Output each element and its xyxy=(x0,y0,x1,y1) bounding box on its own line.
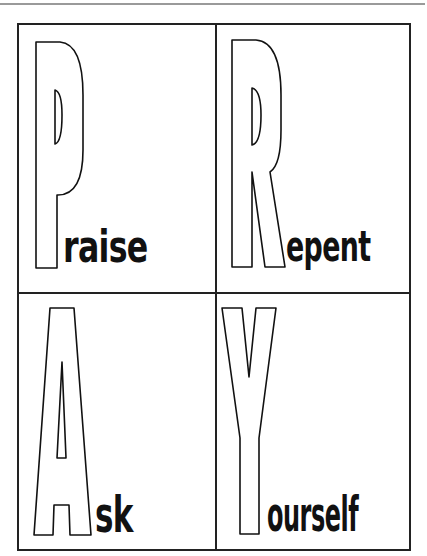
letter-r-outline-icon xyxy=(232,40,285,267)
outlined-initials xyxy=(0,0,427,556)
word-ask-rest: sk xyxy=(95,490,133,540)
word-repent-rest: epent xyxy=(286,226,370,268)
word-praise-rest: raise xyxy=(63,225,148,269)
letter-a-outline-icon xyxy=(34,308,91,535)
word-yourself-rest: ourself xyxy=(267,490,358,538)
